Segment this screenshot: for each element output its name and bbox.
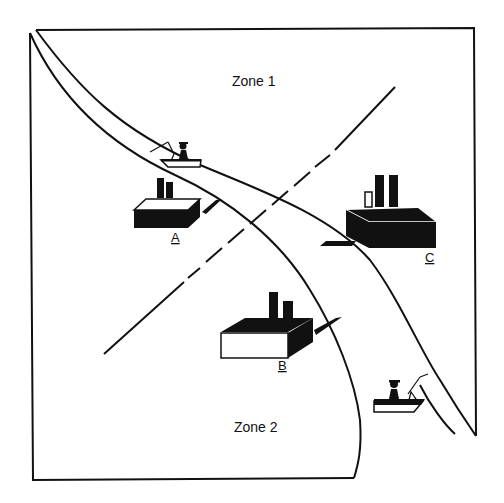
plant-body [134, 210, 188, 228]
zone-2-label: Zone 2 [234, 419, 278, 435]
plant-b: B [221, 292, 342, 373]
boat-lower [374, 374, 428, 412]
boundary-segment [272, 191, 288, 205]
boat-sail [409, 392, 416, 400]
zone-1-label: Zone 1 [232, 73, 276, 89]
discharge-pipe [320, 241, 356, 246]
smokestack [157, 178, 164, 198]
boundary-segment [104, 282, 184, 354]
plant-a: A [134, 178, 222, 245]
discharge-pipe [202, 199, 222, 214]
fishing-rod-tip [420, 374, 428, 377]
frame-left-bottom [30, 33, 354, 480]
smokestack [166, 182, 173, 198]
pollution-zone-diagram: Zone 1 Zone 2 A B C [0, 0, 504, 503]
plant-a-label: A [171, 230, 180, 245]
boundary-segment [335, 87, 395, 150]
river-inner-curve [420, 385, 455, 434]
smokestack [283, 301, 293, 318]
boat-gunwale [374, 399, 425, 405]
discharge-pipe [314, 317, 342, 335]
plant-c: C [320, 175, 436, 265]
plant-b-label: B [278, 358, 287, 373]
smokestack [269, 292, 278, 318]
boundary-segment [315, 155, 330, 167]
smokestack-hollow [365, 192, 372, 207]
fishing-rod [408, 377, 420, 394]
boat-gunwale [161, 159, 201, 162]
fisherman-body [179, 150, 188, 159]
smokestack [389, 175, 398, 207]
plant-c-label: C [425, 250, 434, 265]
boundary-segment [250, 210, 266, 224]
boundary-segment [206, 248, 222, 262]
fisherman-cap [179, 142, 188, 144]
smokestack [375, 175, 384, 207]
boundary-segment [294, 172, 310, 186]
boundary-segment [228, 229, 244, 243]
plant-body [221, 333, 288, 358]
boundary-segment [188, 268, 200, 278]
river-lower-bank [30, 33, 361, 478]
fisherman-body [389, 389, 399, 399]
fisherman-cap [389, 380, 400, 383]
